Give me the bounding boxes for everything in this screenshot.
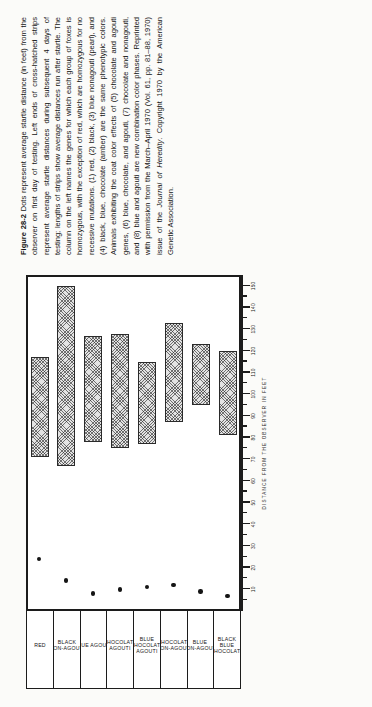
axis-tick-major [243,415,250,416]
axis-tick-major [243,371,250,372]
category-label-cell: BLACK (NON-AGOUTI) [54,611,81,688]
axis-tick-minor [243,339,247,340]
axis-tick-label: 50 [251,500,256,506]
category-label-text: CHOCOLATE NON-AGOUTI [161,639,188,651]
category-label-cell: BLUE CHOCOLATE AGOUTI [134,611,161,688]
axis-tick-major [243,501,250,502]
axis-tick-label: 140 [251,303,256,312]
axis-tick-label: 150 [251,281,256,290]
x-axis: 102030405060708090100110120130140150 DIS… [241,275,275,611]
category-label-text: BLUE NON-AGOUTI [188,639,215,651]
axis-tick-minor [243,599,247,600]
rotated-figure-canvas: REDBLACK (NON-AGOUTI)BLUE AGOUTICHOCOLAT… [0,0,372,707]
figure-number: Figure 28-2 [19,214,28,255]
axis-tick-label: 10 [251,586,256,592]
axis-tick-minor [243,534,247,535]
chart-row [53,275,80,611]
startle-dot [64,578,68,582]
category-label-text: BLUE AGOUTI [81,642,108,648]
axis-tick-label: 100 [251,390,256,399]
axis-tick-major [243,436,250,437]
axis-tick-label: 90 [251,413,256,419]
chart-row [26,275,53,611]
startle-dot [118,587,122,591]
category-label-column: REDBLACK (NON-AGOUTI)BLUE AGOUTICHOCOLAT… [26,611,241,689]
bar-strip [165,323,183,423]
axis-tick-label: 70 [251,456,256,462]
axis-tick-minor [243,425,247,426]
category-label-cell: BLACK BLUE CHOCOLATE [214,611,240,688]
chart-row [107,275,134,611]
bar-strip [192,344,210,405]
startle-dot [171,583,175,587]
chart-row [160,275,187,611]
axis-tick-minor [243,295,247,296]
bar-strip [111,334,129,449]
chart-row [214,275,241,611]
category-label-cell: CHOCOLATE NON-AGOUTI [161,611,188,688]
caption-journal-name: Journal of Heredity [155,140,164,208]
axis-tick-major [243,393,250,394]
bar-strip [31,357,49,457]
axis-tick-label: 110 [251,368,256,376]
axis-tick-label: 120 [251,346,256,355]
axis-tick-minor [243,512,247,513]
axis-tick-minor [243,447,247,448]
category-label-cell: RED [27,611,54,688]
axis-tick-minor [243,404,247,405]
figure-caption: Figure 28-2 Dots represent average start… [18,17,176,255]
category-label-cell: BLUE AGOUTI [81,611,108,688]
axis-tick-label: 130 [251,325,256,334]
category-label-text: RED [27,642,54,648]
caption-text-part1: Dots represent average startle distance … [19,17,164,255]
axis-tick-major [243,566,250,567]
startle-dot [145,585,149,589]
figure-page: REDBLACK (NON-AGOUTI)BLUE AGOUTICHOCOLAT… [0,0,372,707]
axis-tick-major [243,306,250,307]
bar-strip [138,362,156,444]
startle-dot [91,591,95,595]
axis-tick-label: 40 [251,521,256,527]
axis-tick-major [243,523,250,524]
chart-row [187,275,214,611]
axis-tick-major [243,480,250,481]
category-label-text: CHOCOLATE AGOUTI [107,639,134,651]
category-label-text: BLACK (NON-AGOUTI) [54,639,81,651]
startle-dot [37,557,41,561]
axis-tick-major [243,545,250,546]
axis-tick-minor [243,469,247,470]
bar-strip [57,286,75,466]
axis-tick-label: 80 [251,435,256,441]
category-label-cell: BLUE NON-AGOUTI [188,611,215,688]
chart: REDBLACK (NON-AGOUTI)BLUE AGOUTICHOCOLAT… [20,269,358,689]
startle-dot [198,589,202,593]
axis-tick-minor [243,577,247,578]
bar-strip [84,336,102,442]
axis-tick-major [243,285,250,286]
axis-tick-major [243,350,250,351]
axis-tick-minor [243,317,247,318]
chart-row [134,275,161,611]
category-label-text: BLUE CHOCOLATE AGOUTI [134,636,161,654]
axis-tick-label: 30 [251,543,256,549]
axis-tick-major [243,328,250,329]
startle-dot [225,594,229,598]
axis-tick-minor [243,490,247,491]
axis-tick-major [243,588,250,589]
chart-row [80,275,107,611]
axis-tick-minor [243,556,247,557]
category-label-cell: CHOCOLATE AGOUTI [107,611,134,688]
axis-tick-label: 60 [251,478,256,484]
axis-line [241,275,243,611]
axis-tick-minor [243,382,247,383]
plot-area [26,275,241,611]
axis-tick-label: 20 [251,565,256,571]
axis-tick-minor [243,360,247,361]
axis-tick-major [243,458,250,459]
x-axis-title: DISTANCE FROM THE OBSERVER IN FEET [262,275,267,611]
category-label-text: BLACK BLUE CHOCOLATE [214,636,240,654]
bar-strip [219,351,237,436]
